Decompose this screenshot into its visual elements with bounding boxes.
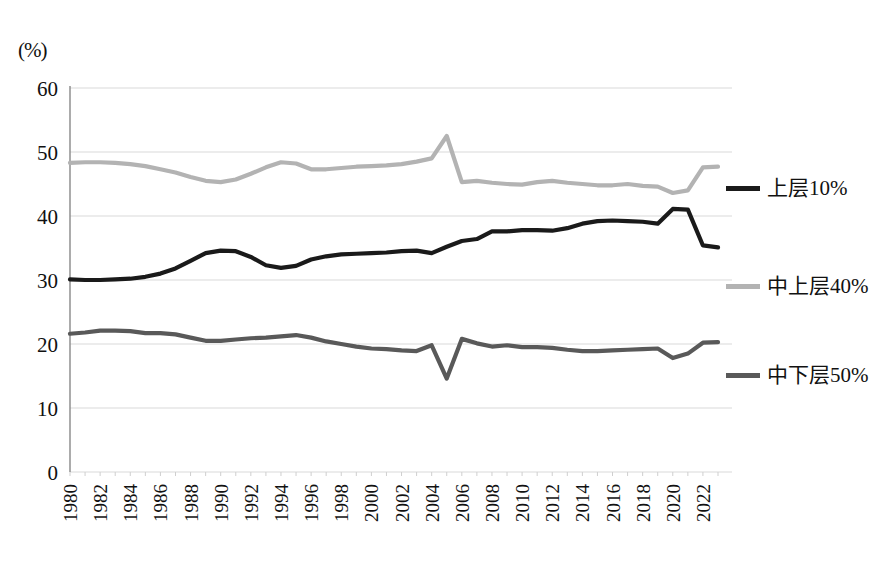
x-axis-tick-label: 2008 <box>482 484 503 522</box>
y-axis-tick-label: 40 <box>37 205 58 229</box>
x-axis-tick-label: 2018 <box>633 484 654 522</box>
chart-container: (%) 010203040506019801982198419861988199… <box>0 0 895 568</box>
x-axis-tick-label: 1992 <box>241 484 262 522</box>
legend-item-label: 中下层50% <box>767 365 869 386</box>
x-axis-tick-label: 1996 <box>301 484 322 522</box>
series-line-1 <box>70 209 718 280</box>
legend-swatch-icon <box>726 284 760 289</box>
x-axis-tick-label: 2012 <box>542 484 563 522</box>
y-axis-tick-label: 50 <box>37 141 58 165</box>
x-axis-tick-label: 2004 <box>422 484 443 523</box>
x-axis-tick-label: 2006 <box>452 484 473 522</box>
y-axis-tick-label: 30 <box>37 269 58 293</box>
x-axis-tick-label: 2020 <box>663 484 684 522</box>
x-axis-tick-label: 1998 <box>331 484 352 522</box>
x-axis-tick-label: 2000 <box>361 484 382 522</box>
y-axis-tick-label: 0 <box>48 461 59 485</box>
legend-swatch-icon <box>726 373 760 378</box>
y-axis-tick-label: 20 <box>37 333 58 357</box>
x-axis-tick-label: 1984 <box>120 484 141 523</box>
series-line-2 <box>70 136 718 193</box>
x-axis-tick-label: 1990 <box>211 484 232 522</box>
series-line-3 <box>70 331 718 379</box>
legend-item-label: 上层10% <box>767 178 848 199</box>
x-axis-tick-label: 1986 <box>150 484 171 522</box>
x-axis-tick-label: 1980 <box>60 484 81 522</box>
legend-item-1[interactable]: 上层10% <box>726 178 848 199</box>
legend-item-3[interactable]: 中下层50% <box>726 365 869 386</box>
legend-item-label: 中上层40% <box>767 276 869 297</box>
x-axis-tick-label: 2016 <box>603 484 624 522</box>
x-axis-tick-label: 1988 <box>181 484 202 522</box>
x-axis-tick-label: 2002 <box>392 484 413 522</box>
y-axis-tick-label: 60 <box>37 77 58 101</box>
x-axis-tick-label: 1982 <box>90 484 111 522</box>
x-axis-tick-label: 2010 <box>512 484 533 522</box>
x-axis-tick-label: 2022 <box>693 484 714 522</box>
y-axis-tick-label: 10 <box>37 397 58 421</box>
x-axis-tick-label: 2014 <box>572 484 593 523</box>
x-axis-tick-label: 1994 <box>271 484 292 523</box>
legend-item-2[interactable]: 中上层40% <box>726 276 869 297</box>
legend-swatch-icon <box>726 186 760 191</box>
